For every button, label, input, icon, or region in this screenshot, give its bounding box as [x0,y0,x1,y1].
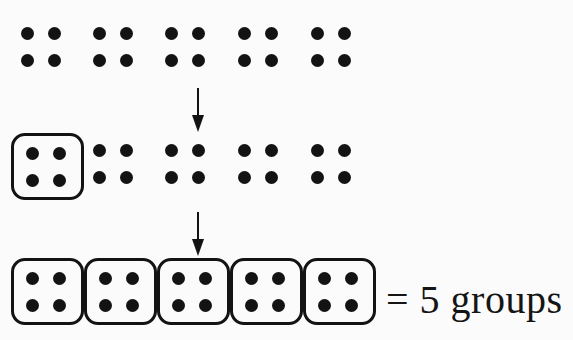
dot-group [242,272,294,316]
dot [93,171,106,184]
dot [265,54,278,67]
dot [165,144,178,157]
dot [53,272,66,285]
dot [165,171,178,184]
boxed-dot-group [11,258,84,325]
boxed-dot-group [84,258,157,325]
dot [126,272,139,285]
dot [165,54,178,67]
boxed-dot-group [230,258,303,325]
dot [48,54,61,67]
boxed-dot-group [157,258,230,325]
dot [199,272,212,285]
boxed-dot-group [303,258,376,325]
dot-group [18,27,70,71]
arrow-shaft [197,212,199,242]
dot [26,272,39,285]
dot [272,299,285,312]
dot [93,54,106,67]
dot [245,272,258,285]
dot [165,27,178,40]
dot [311,144,324,157]
dot [53,299,66,312]
dot [53,147,66,160]
dot [48,27,61,40]
dot [26,299,39,312]
dot-group [308,144,360,188]
dot [238,54,251,67]
arrow-shaft [197,88,199,118]
dot [345,299,358,312]
dot [192,54,205,67]
dot [265,27,278,40]
dot [26,147,39,160]
dot [120,144,133,157]
figure-canvas: = 5 groups [0,0,573,340]
dot [238,27,251,40]
dot-group [308,27,360,71]
dot [120,54,133,67]
dot [99,299,112,312]
dot [338,171,351,184]
dot-group [96,272,148,316]
dot [238,144,251,157]
dot [311,54,324,67]
dot [21,27,34,40]
dot-group [162,27,214,71]
dot [126,299,139,312]
dot [120,171,133,184]
dot [265,171,278,184]
dot-group [90,144,142,188]
dot [192,144,205,157]
dot [26,174,39,187]
dot-group [315,272,367,316]
dot [172,272,185,285]
dot [238,171,251,184]
dot [311,27,324,40]
boxed-dot-group [11,133,84,200]
dot [338,27,351,40]
dot [21,54,34,67]
dot [318,299,331,312]
dot [192,171,205,184]
dot [99,272,112,285]
dot [53,174,66,187]
result-label: = 5 groups [386,280,562,320]
dot-group [23,272,75,316]
dot [192,27,205,40]
arrow-head [192,115,204,132]
dot [199,299,212,312]
dot-group [169,272,221,316]
dot [318,272,331,285]
dot-group [235,144,287,188]
dot-group [162,144,214,188]
dot [272,272,285,285]
dot-group [23,147,75,191]
dot [93,27,106,40]
dot [338,144,351,157]
dot [93,144,106,157]
arrow-head [192,239,204,256]
dot [172,299,185,312]
dot [345,272,358,285]
dot [338,54,351,67]
dot [311,171,324,184]
down-arrow-icon [190,212,206,256]
down-arrow-icon [190,88,206,132]
dot [245,299,258,312]
dot [265,144,278,157]
dot [120,27,133,40]
dot-group [90,27,142,71]
dot-group [235,27,287,71]
